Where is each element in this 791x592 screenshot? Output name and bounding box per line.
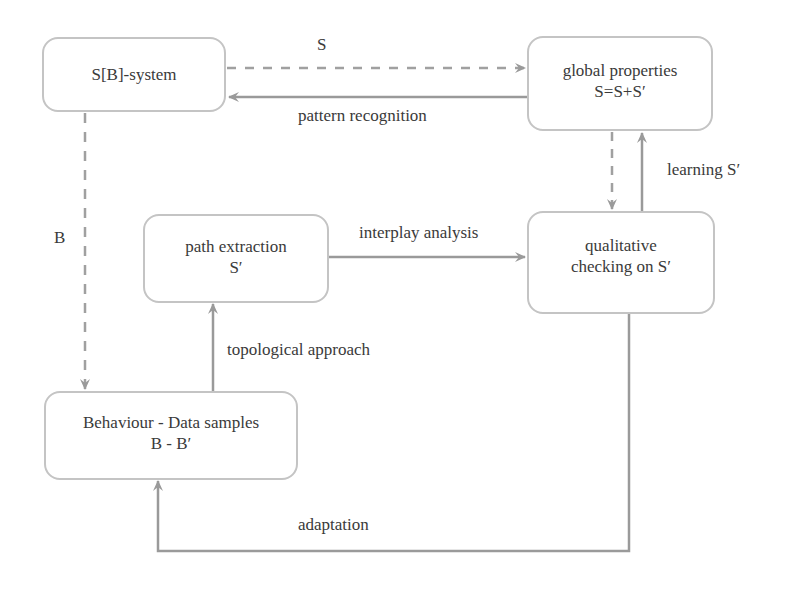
edge-label-s: S xyxy=(317,35,326,55)
edge-label-interplay-analysis: interplay analysis xyxy=(359,223,478,243)
node-qualitative-checking-line2: checking on S′ xyxy=(571,256,671,277)
node-behaviour: Behaviour - Data samples B - B′ xyxy=(44,391,298,480)
node-global-properties: global properties S=S+S′ xyxy=(527,36,713,131)
node-behaviour-title: Behaviour - Data samples xyxy=(83,412,259,433)
edge-label-adaptation: adaptation xyxy=(298,515,369,535)
node-path-extraction: path extraction S′ xyxy=(143,214,329,303)
edge-label-topological-approach: topological approach xyxy=(227,340,370,360)
edge-label-pattern-recognition: pattern recognition xyxy=(298,106,427,126)
node-path-extraction-title: path extraction xyxy=(185,236,287,257)
edge-label-b: B xyxy=(54,228,65,248)
node-global-properties-title: global properties xyxy=(563,60,678,81)
node-behaviour-sub: B - B′ xyxy=(151,433,192,454)
node-sb-system-label: S[B]-system xyxy=(92,64,177,85)
node-path-extraction-sub: S′ xyxy=(229,257,242,278)
node-qualitative-checking: qualitative checking on S′ xyxy=(527,211,715,314)
node-global-properties-formula: S=S+S′ xyxy=(594,81,645,102)
node-qualitative-checking-line1: qualitative xyxy=(585,235,657,256)
edge-label-learning: learning S′ xyxy=(667,160,740,180)
node-sb-system: S[B]-system xyxy=(42,37,226,112)
